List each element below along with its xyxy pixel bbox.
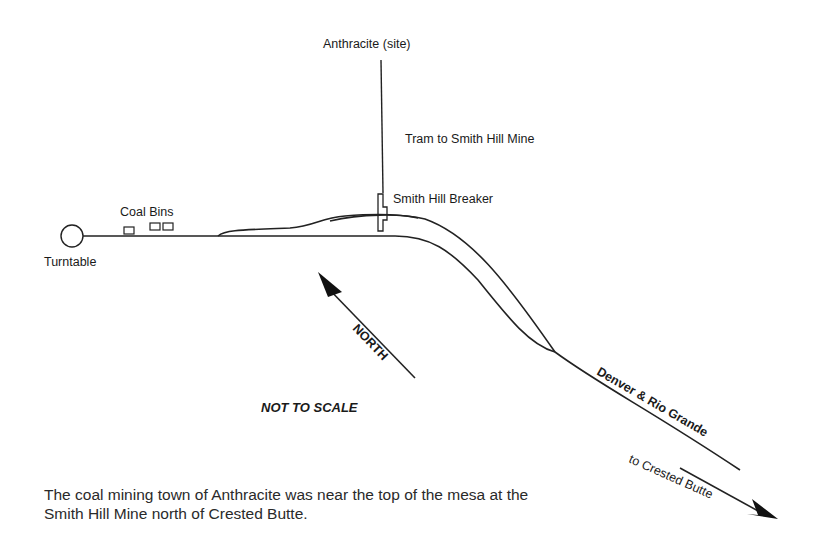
railroad-map-diagram: Anthracite (site) Tram to Smith Hill Min…: [0, 0, 823, 546]
tram-label: Tram to Smith Hill Mine: [405, 132, 534, 146]
turntable-label: Turntable: [44, 255, 96, 269]
north-label: NORTH: [350, 321, 391, 363]
breaker-building-icon: [378, 194, 387, 231]
coal-bin-icon: [163, 223, 173, 230]
tram-line: [381, 60, 383, 193]
caption: The coal mining town of Anthracite was n…: [44, 485, 564, 523]
north-arrow-icon: [318, 272, 342, 297]
breaker-label: Smith Hill Breaker: [393, 192, 493, 206]
siding-track: [218, 215, 418, 236]
turntable-icon: [61, 225, 83, 247]
destination-label: to Crested Butte: [627, 452, 715, 502]
destination-arrow-icon: [747, 499, 778, 519]
anthracite-site-label: Anthracite (site): [323, 37, 411, 51]
coal-bin-icon: [150, 223, 160, 230]
not-to-scale-label: NOT TO SCALE: [261, 400, 358, 415]
coal-bin-icon: [124, 227, 134, 234]
main-track: [83, 236, 740, 470]
coal-bins-label: Coal Bins: [120, 205, 174, 219]
railroad-label: Denver & Rio Grande: [595, 364, 711, 439]
